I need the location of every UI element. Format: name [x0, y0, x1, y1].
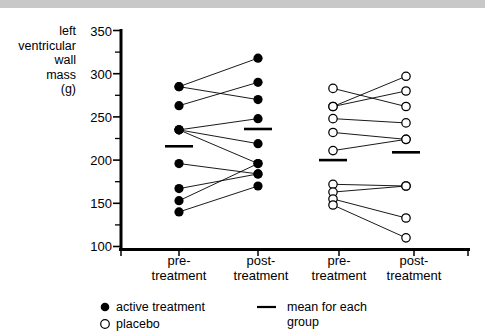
legend-mean-label: mean for each group: [287, 300, 367, 330]
chart-figure: left ventricular wall mass (g) 350 300 2…: [0, 0, 485, 334]
data-series: [165, 54, 420, 243]
plot-area: [0, 0, 485, 334]
x-tick-label-3: post- treatment: [368, 254, 460, 283]
x-tick-label-0: pre- treatment: [133, 254, 225, 283]
legend-placebo-label: placebo: [116, 317, 160, 332]
axes: [119, 29, 470, 250]
legend-active-label: active treatment: [116, 300, 205, 315]
